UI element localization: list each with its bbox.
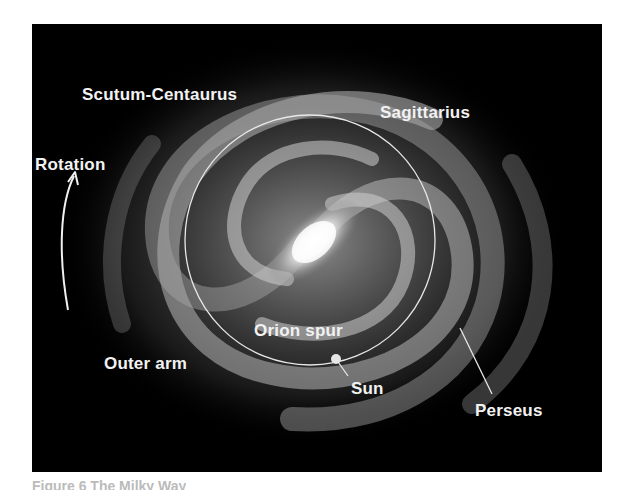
label-outer-arm: Outer arm xyxy=(104,354,187,374)
label-scutum-centaurus: Scutum-Centaurus xyxy=(82,85,237,105)
figure-caption-partial: Figure 6 The Milky Way xyxy=(32,478,186,490)
label-sagittarius: Sagittarius xyxy=(380,103,470,123)
sun-dot xyxy=(331,354,341,364)
label-rotation: Rotation xyxy=(35,155,106,175)
galaxy-figure-panel: Scutum-Centaurus Sagittarius Rotation Or… xyxy=(32,24,602,472)
label-perseus: Perseus xyxy=(475,401,543,421)
label-orion-spur: Orion spur xyxy=(254,321,343,341)
label-sun: Sun xyxy=(351,379,384,399)
